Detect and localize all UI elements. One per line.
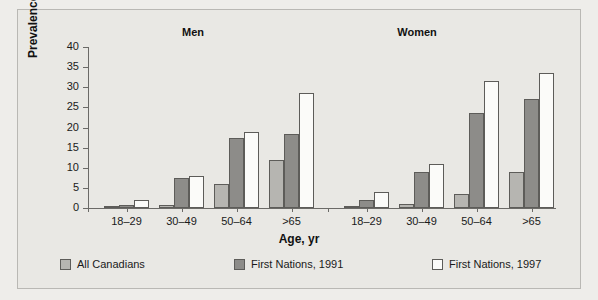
bar-group <box>159 47 204 208</box>
bar-group <box>269 47 314 208</box>
x-tick <box>182 208 183 212</box>
legend-swatch-icon <box>60 259 71 270</box>
x-tick-label: 30–49 <box>397 215 447 227</box>
x-axis-line <box>88 208 556 209</box>
x-tick-label: 50–64 <box>212 215 262 227</box>
legend-item-first-nations-1997: First Nations, 1997 <box>432 258 541 270</box>
x-tick <box>292 208 293 212</box>
y-tick-label: 40 <box>67 39 79 54</box>
panel-title-women: Women <box>372 26 462 38</box>
y-tick: 35 <box>83 67 88 68</box>
y-tick-label: 20 <box>67 120 79 135</box>
y-tick-label: 25 <box>67 99 79 114</box>
bar <box>469 113 484 208</box>
panel-title-men: Men <box>148 26 238 38</box>
figure-root: Prevalence, % Men Women 0510152025303540… <box>0 0 598 300</box>
x-tick <box>367 208 368 212</box>
x-tick <box>127 208 128 212</box>
bar <box>174 178 189 208</box>
plot-area: 0510152025303540 18–2930–4950–64>6518–29… <box>88 47 556 208</box>
bar <box>269 160 284 208</box>
bar-group <box>399 47 444 208</box>
bar <box>414 172 429 208</box>
x-tick-label: >65 <box>267 215 317 227</box>
y-tick: 20 <box>83 128 88 129</box>
bar <box>509 172 524 208</box>
bar <box>429 164 444 208</box>
legend-swatch-icon <box>432 259 443 270</box>
y-tick: 10 <box>83 168 88 169</box>
bar <box>484 81 499 208</box>
bar <box>359 200 374 208</box>
x-tick <box>477 208 478 212</box>
bar <box>214 184 229 208</box>
legend-label: All Canadians <box>77 258 145 270</box>
y-tick: 5 <box>83 188 88 189</box>
bar <box>524 99 539 208</box>
y-tick-label: 0 <box>73 200 79 215</box>
x-tick <box>422 208 423 212</box>
bar <box>284 134 299 208</box>
bar <box>159 205 174 208</box>
legend-swatch-icon <box>234 259 245 270</box>
bar-group <box>214 47 259 208</box>
bar <box>299 93 314 208</box>
y-axis-line <box>88 47 89 208</box>
x-tick-label: 18–29 <box>102 215 152 227</box>
bar <box>229 138 244 208</box>
x-tick <box>328 208 329 212</box>
x-tick-label: 50–64 <box>452 215 502 227</box>
legend-label: First Nations, 1997 <box>449 258 541 270</box>
y-tick-label: 10 <box>67 160 79 175</box>
x-tick <box>532 208 533 212</box>
x-tick-label: 18–29 <box>342 215 392 227</box>
x-axis-title: Age, yr <box>0 232 598 246</box>
x-tick-label: >65 <box>507 215 557 227</box>
y-tick: 40 <box>83 47 88 48</box>
y-axis-title: Prevalence, % <box>26 0 40 58</box>
x-tick <box>88 208 89 212</box>
bar <box>454 194 469 208</box>
y-tick: 15 <box>83 148 88 149</box>
y-tick: 25 <box>83 107 88 108</box>
legend: All Canadians First Nations, 1991 First … <box>0 258 598 278</box>
bar <box>189 176 204 208</box>
bar-group <box>509 47 554 208</box>
bar <box>104 206 119 208</box>
bar-group <box>454 47 499 208</box>
y-tick-label: 30 <box>67 79 79 94</box>
y-tick-label: 35 <box>67 59 79 74</box>
y-tick-label: 15 <box>67 140 79 155</box>
bar <box>244 132 259 208</box>
bar <box>374 192 389 208</box>
bar <box>539 73 554 208</box>
bar-group <box>344 47 389 208</box>
bar <box>344 206 359 208</box>
y-tick: 30 <box>83 87 88 88</box>
legend-item-first-nations-1991: First Nations, 1991 <box>234 258 343 270</box>
bar-group <box>104 47 149 208</box>
legend-item-all-canadians: All Canadians <box>60 258 145 270</box>
legend-label: First Nations, 1991 <box>251 258 343 270</box>
y-tick-label: 5 <box>73 180 79 195</box>
bar <box>399 204 414 208</box>
bar <box>134 200 149 208</box>
x-tick <box>237 208 238 212</box>
x-tick-label: 30–49 <box>157 215 207 227</box>
